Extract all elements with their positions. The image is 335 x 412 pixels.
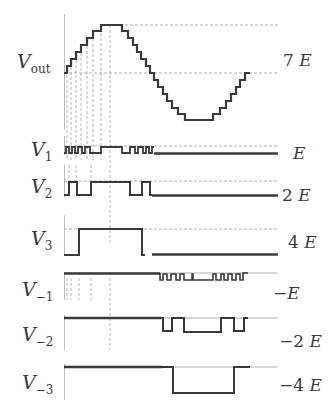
label-v3: V3 <box>31 229 52 252</box>
label-minus-4e: −4 E <box>279 377 322 394</box>
vm1-waveform <box>160 273 248 280</box>
label-minus-e: −E <box>273 285 300 302</box>
v3-waveform <box>64 229 145 255</box>
label-minus-2e: −2 E <box>279 333 322 350</box>
label-7e: 7 E <box>283 52 312 69</box>
label-vout: Vout <box>17 52 51 75</box>
vm3-waveform <box>64 367 250 393</box>
v2-waveform <box>64 182 152 195</box>
label-v1: V1 <box>31 140 52 163</box>
label-4e: 4 E <box>288 234 317 251</box>
label-vm1: V−1 <box>22 280 53 303</box>
vout-staircase <box>64 25 250 120</box>
guide-lines <box>67 25 110 350</box>
vm2-waveform <box>161 318 248 332</box>
label-vm3: V−3 <box>22 373 53 396</box>
label-2e: 2 E <box>282 187 311 204</box>
label-e: E <box>293 145 305 162</box>
label-vm2: V−2 <box>22 325 53 348</box>
label-v2: V2 <box>31 177 52 200</box>
v1-waveform <box>64 147 154 153</box>
